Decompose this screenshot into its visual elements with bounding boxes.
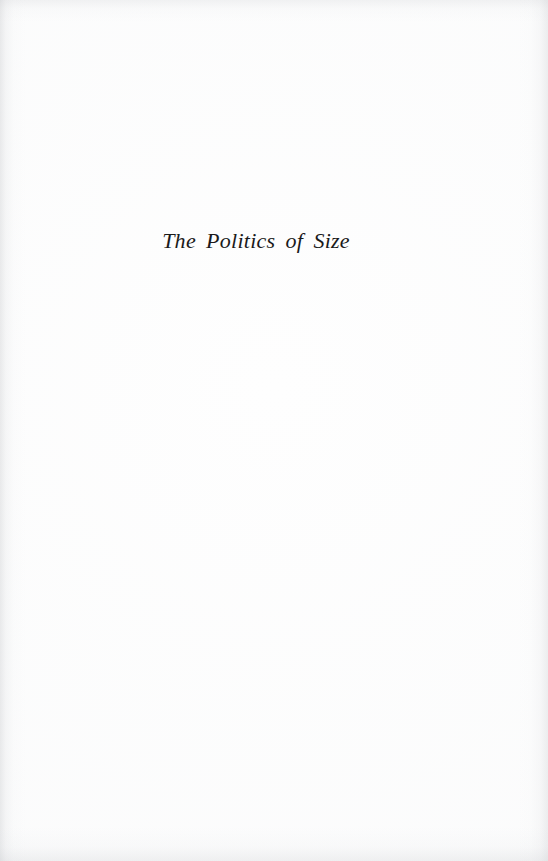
scan-shadow-left — [0, 0, 26, 861]
book-half-title-page: The Politics of Size — [0, 0, 548, 861]
paper-tone-overlay — [0, 0, 548, 861]
scan-shadow-right — [518, 0, 548, 861]
half-title-text: The Politics of Size — [0, 228, 512, 254]
scan-shadow-bottom — [0, 827, 548, 861]
scan-shadow-top — [0, 0, 548, 22]
